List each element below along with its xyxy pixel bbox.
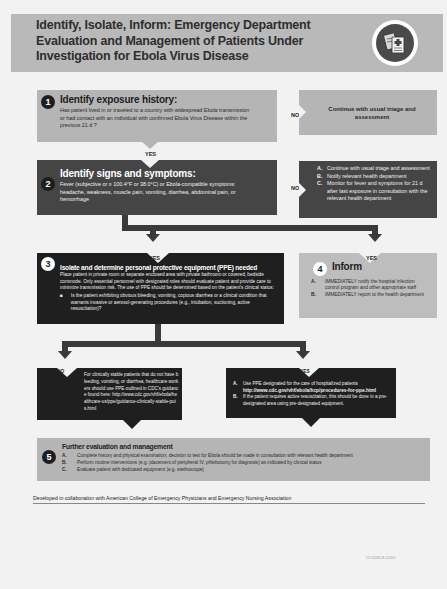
arrow-to-yes-branch	[296, 351, 310, 359]
branch-yes-label: YES	[300, 369, 310, 374]
step5-item-a: A.Complete history and physical examinat…	[62, 452, 422, 459]
bullet-icon: ■	[60, 293, 63, 313]
step3-yes-label: YES	[149, 255, 160, 261]
step3-number-badge: 3	[41, 257, 55, 271]
step1-box: 1 Identify exposure history: Has patient…	[37, 90, 277, 142]
step3-title: Isolate and determine personal protectiv…	[60, 264, 257, 271]
step1-title: Identify exposure history:	[60, 94, 177, 105]
step3-text: Place patient in private room or separat…	[60, 272, 280, 292]
step4-items: A.IMMEDIATELY notify the hospital infect…	[311, 279, 429, 298]
step4-item-a: A.IMMEDIATELY notify the hospital infect…	[311, 279, 429, 292]
step5-item-c: C.Evaluate patient with dedicated equipm…	[62, 466, 422, 473]
step2-no-label: NO	[291, 185, 299, 191]
step5-item-b: B.Perform routine interventions (e.g. pl…	[62, 459, 422, 466]
step1-no-label: NO	[291, 112, 299, 118]
branch-no-text: For clinically stable patients that do n…	[84, 372, 179, 413]
step2-action-b: B.Notify relevant health department	[317, 173, 433, 181]
document-page: Identify, Isolate, Inform: Emergency Dep…	[0, 0, 447, 589]
step4-title: Inform	[332, 261, 362, 272]
step4-item-b: B.IMMEDIATELY report to the health depar…	[311, 292, 429, 298]
step2-chevron	[299, 183, 306, 197]
step2-action-c: C.Monitor for fever and symptoms for 21 …	[317, 180, 433, 203]
step2-notch	[141, 160, 159, 168]
step5-title: Further evaluation and management	[62, 443, 172, 450]
branch-yes-items: A.Use PPE designated for the care of hos…	[233, 381, 393, 407]
step4-number-badge: 4	[313, 262, 327, 276]
step4-box: 4 Inform A.IMMEDIATELY notify the hospit…	[299, 253, 437, 318]
page-title: Identify, Isolate, Inform: Emergency Dep…	[36, 18, 346, 65]
collaboration-note: Developed in collaboration with American…	[33, 495, 291, 501]
branch-no-box: For clinically stable patients that do n…	[37, 368, 182, 420]
step3-bullet: ■ Is the patient exhibiting obvious blee…	[60, 293, 275, 313]
step2-title: Identify signs and symptoms:	[60, 168, 196, 179]
step1-no-action-text: Continue with usual triage and assessmen…	[317, 106, 427, 121]
branch-yes-item-a: A.Use PPE designated for the care of hos…	[233, 381, 393, 388]
step1-no-action-box: Continue with usual triage and assessmen…	[299, 90, 437, 135]
step1-question: Has patient lived in or traveled to a co…	[60, 107, 250, 130]
step3-box: 3 Isolate and determine personal protect…	[37, 253, 284, 324]
step2-number-badge: 2	[41, 177, 55, 191]
step5-items: A.Complete history and physical examinat…	[62, 452, 422, 474]
step2-symptoms: Fever (subjective or ≥ 100.4°F or 38.0°C…	[60, 181, 238, 204]
arrow-to-no-branch	[58, 351, 72, 359]
header-icon-ring	[372, 20, 418, 66]
step2-no-actions: A.Continue with usual triage and assessm…	[317, 165, 433, 203]
connector-step2-horizontal	[122, 225, 378, 231]
step1-notch	[141, 141, 159, 149]
branch-yes-item-b: B.If the patient requires active resusci…	[233, 394, 393, 407]
footer-rule	[33, 503, 425, 504]
step1-yes-label: YES	[145, 151, 156, 157]
ppe-procedures-link[interactable]: http://www.cdc.gov/vhf/ebola/hcp/procedu…	[233, 388, 393, 395]
arrow-to-step4	[368, 234, 382, 242]
step5-number-badge: 5	[42, 450, 56, 464]
step1-number-badge: 1	[41, 95, 55, 109]
document-code: CS 251835-B 12/2015	[366, 556, 396, 560]
step2-box: 2 Identify signs and symptoms: Fever (su…	[37, 160, 277, 215]
step2-action-a: A.Continue with usual triage and assessm…	[317, 165, 433, 173]
branch-yes-box: A.Use PPE designated for the care of hos…	[226, 368, 396, 418]
arrow-to-step3	[146, 234, 160, 242]
medical-documents-icon	[376, 24, 414, 62]
step1-chevron	[299, 105, 306, 119]
arrow-yes-to-step5	[302, 418, 320, 427]
step5-box: 5 Further evaluation and management A.Co…	[37, 438, 430, 481]
step4-yes-label: YES	[366, 255, 377, 261]
step2-no-action-box: A.Continue with usual triage and assessm…	[299, 161, 437, 218]
branch-no-label: NO	[57, 369, 64, 374]
arrow-no-to-step5	[123, 420, 141, 429]
connector-step3-horizontal	[62, 341, 306, 347]
